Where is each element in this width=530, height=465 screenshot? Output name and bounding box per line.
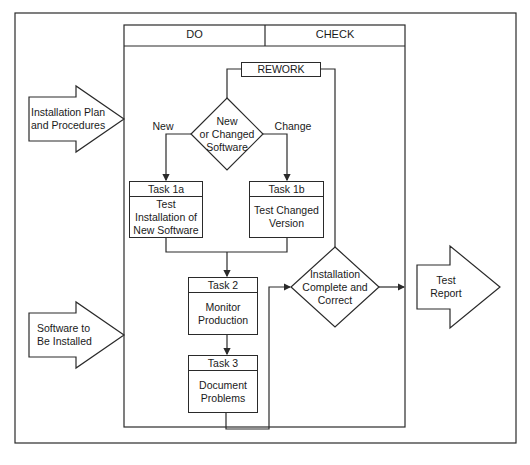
task-1a-title: Task 1a [130,182,202,197]
task-2-box: Task 2 Monitor Production [188,277,258,335]
rework-label: REWORK [242,63,320,76]
input-software-label: Software to Be Installed [37,322,107,348]
input-plan-label: Installation Plan and Procedures [31,106,111,132]
task-3-body: Document Problems [189,371,257,412]
workflow-diagram: DO CHECK REWORK New or Changed Software … [0,0,530,465]
decision-check-label: Installation Complete and Correct [290,268,380,307]
branch-change-label: Change [270,120,316,133]
output-report-label: Test Report [420,274,472,300]
task-2-body: Monitor Production [189,293,257,334]
task-1a-body: Test Installation of New Software [130,197,202,237]
task-2-title: Task 2 [189,278,257,293]
task-3-box: Task 3 Document Problems [188,355,258,413]
decision-software-label: New or Changed Software [192,115,262,154]
branch-new-label: New [148,120,178,133]
task-1b-box: Task 1b Test Changed Version [249,181,324,238]
task-3-title: Task 3 [189,356,257,371]
task-1b-body: Test Changed Version [250,197,323,237]
task-1a-box: Task 1a Test Installation of New Softwar… [129,181,203,238]
column-check-label: CHECK [265,28,405,41]
column-do-label: DO [124,28,265,41]
task-1b-title: Task 1b [250,182,323,197]
rework-box: REWORK [241,62,321,77]
